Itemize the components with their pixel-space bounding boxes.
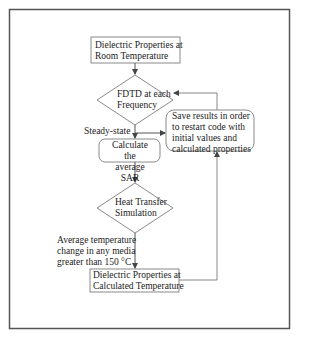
calculate-sar-line1: Calculate the [107,140,153,162]
steady-state-label: Steady-state [84,126,130,137]
calculated-temperature-text: Dielectric Properties at Calculated Temp… [93,270,184,292]
heat-transfer-line1: Heat Transfer [115,197,167,208]
calculate-sar-line2: average SAR [107,162,153,184]
fdtd-line1: FDTD at each [117,89,171,100]
heat-transfer-line2: Simulation [115,208,167,219]
calculated-temperature-line1: Dielectric Properties at [93,270,184,281]
fdtd-text: FDTD at each Frequency [117,89,171,111]
temperature-change-line1: Average temperature [57,235,136,246]
save-results-text: Save results in order to restart code wi… [172,111,251,155]
temperature-change-label: Average temperature change in any media … [57,235,136,268]
save-results-line3: initial values and [172,133,251,144]
temperature-change-line2: change in any media [57,246,136,257]
temperature-change-line3: greater than 150 °C [57,257,136,268]
edge-save-to-fdtd [174,93,217,110]
save-results-line4: calculated properties [172,144,251,155]
calculate-sar-text: Calculate the average SAR [107,140,153,184]
heat-transfer-text: Heat Transfer Simulation [115,197,167,219]
room-temperature-line2: Room Temperature [95,51,183,62]
save-results-line2: to restart code with [172,122,251,133]
room-temperature-line1: Dielectric Properties at [95,40,183,51]
fdtd-line2: Frequency [117,100,171,111]
room-temperature-text: Dielectric Properties at Room Temperatur… [95,40,183,62]
calculated-temperature-line2: Calculated Temperature [93,281,184,292]
save-results-line1: Save results in order [172,111,251,122]
edge-calc-temp-to-save [179,152,217,280]
